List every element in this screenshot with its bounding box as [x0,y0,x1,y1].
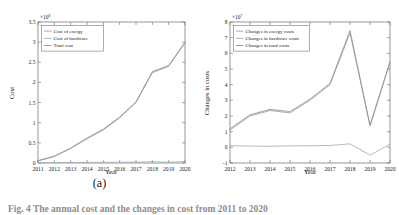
x-tick-label: 2019 [364,166,375,172]
legend-label-0[interactable]: Cost of energy [54,29,84,34]
y-tick-label: 1.5 [29,100,36,106]
y-exponent-base-a: ×10 [40,14,49,20]
legend-a[interactable]: Cost of energyCost of hardwareTotal cost [42,26,104,52]
y-exponent-base-b: ×10 [232,14,241,20]
x-tick-label: 2020 [384,166,395,172]
y-axis-title-b: Changes in costs [203,70,210,115]
y-tick-label: 0.5 [29,140,36,146]
y-tick-label: 2.5 [29,59,36,65]
chart-panel-b: -1012345678 2012201320142015201620172018… [200,0,399,200]
x-tick-label: 2014 [81,166,92,172]
y-tick-label: 3.5 [29,19,36,25]
chart-a-svg: 00.511.522.533.5 20112012201320142015201… [0,0,199,176]
y-tick-label: 2 [33,79,36,85]
legend-label-0[interactable]: Changes in energy costs [246,29,294,34]
chart-panel-a: 00.511.522.533.5 20112012201320142015201… [0,0,199,200]
x-tick-label: 2012 [224,166,235,172]
x-tick-label: 2013 [244,166,255,172]
legend-b[interactable]: Changes in energy costsChanges in hardwa… [234,26,310,52]
x-axis-title-a: Year [105,168,118,175]
figure-container: 00.511.522.533.5 20112012201320142015201… [0,0,399,215]
y-exponent-power-b: 7 [240,14,242,18]
x-tick-label: 2019 [163,166,174,172]
x-tick-label: 2015 [284,166,295,172]
x-tick-label: 2018 [344,166,355,172]
y-tick-label: 2 [225,113,228,119]
x-tick-label: 2020 [179,166,190,172]
y-tick-label: 4 [225,82,228,88]
y-tick-label: 1 [33,120,36,126]
y-axis-title-a: Cost [8,87,15,99]
x-tick-label: 2012 [49,166,60,172]
y-tick-label: 6 [225,50,228,56]
y-tick-label: 3 [225,97,228,103]
y-tick-label: 3 [33,39,36,45]
x-tick-label: 2017 [324,166,335,172]
legend-label-2[interactable]: Total cost [54,43,74,48]
y-axis-exponent-b: ×107 [232,14,242,20]
x-tick-label: 2011 [33,166,44,172]
x-tick-label: 2018 [147,166,158,172]
subcaption-a: (a) [0,176,199,191]
legend-label-1[interactable]: Changes in hardware costs [246,36,300,41]
x-axis-title-b: Year [304,168,317,175]
x-tick-label: 2013 [65,166,76,172]
y-exponent-power-a: 8 [48,14,50,18]
chart-b-svg: -1012345678 2012201320142015201620172018… [200,0,399,176]
y-tick-label: 5 [225,66,228,72]
y-tick-label: 1 [225,129,228,135]
legend-label-1[interactable]: Cost of hardware [54,36,89,41]
y-tick-label: 0 [225,144,228,150]
x-tick-label: 2017 [130,166,141,172]
figure-caption: Fig. 4 The annual cost and the changes i… [8,203,392,215]
x-tick-label: 2014 [264,166,275,172]
y-tick-label: 7 [225,35,228,41]
y-tick-label: 8 [225,19,228,25]
legend-label-2[interactable]: Changes in total costs [246,43,290,48]
y-axis-exponent-a: ×108 [40,14,50,20]
